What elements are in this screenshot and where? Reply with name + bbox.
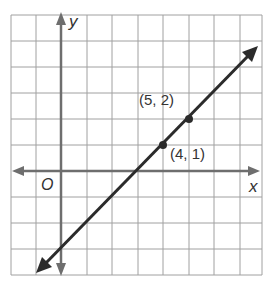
grid — [11, 15, 262, 275]
graph-canvas — [0, 0, 272, 286]
y-axis — [56, 12, 66, 276]
x-axis-label: x — [249, 178, 258, 195]
plotted-line — [36, 46, 258, 273]
coordinate-graph: y x O (5, 2) (4, 1) — [0, 0, 272, 286]
point-4-1 — [159, 141, 167, 149]
point-5-2 — [185, 115, 193, 123]
point-label-5-2: (5, 2) — [139, 92, 174, 107]
y-axis-label: y — [69, 13, 78, 30]
origin-label: O — [41, 177, 53, 193]
point-label-4-1: (4, 1) — [170, 146, 205, 161]
